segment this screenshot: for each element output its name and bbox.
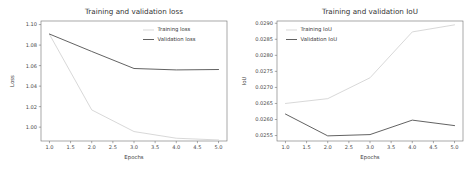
x-tick-label: 3.5 — [151, 144, 159, 150]
figure-canvas: Training and validation loss1.01.52.02.5… — [0, 0, 471, 173]
y-tick-label: 0.0280 — [255, 52, 273, 58]
y-tick-label: 0.0265 — [255, 100, 273, 106]
x-tick-label: 4.0 — [408, 144, 416, 150]
y-tick-label: 1.00 — [26, 124, 37, 130]
legend-label: Validation loss — [158, 36, 196, 42]
chart-svg: Training and validation IoU1.01.52.02.53… — [236, 0, 471, 173]
x-tick-label: 3.0 — [130, 144, 138, 150]
chart-title: Training and validation IoU — [321, 7, 418, 16]
chart-panel-loss: Training and validation loss1.01.52.02.5… — [0, 0, 236, 173]
x-axis-label: Epochs — [360, 154, 380, 161]
x-tick-label: 4.5 — [193, 144, 201, 150]
plot-frame — [41, 21, 227, 141]
series-line-validation — [285, 114, 454, 136]
chart-panel-iou: Training and validation IoU1.01.52.02.53… — [236, 0, 471, 173]
y-tick-label: 0.0290 — [255, 20, 273, 26]
x-tick-label: 4.0 — [172, 144, 180, 150]
legend: Training IoUValidation IoU — [286, 26, 337, 42]
chart-title: Training and validation loss — [84, 7, 183, 16]
x-tick-label: 1.0 — [281, 144, 289, 150]
series-line-training — [49, 34, 218, 140]
x-tick-label: 1.5 — [302, 144, 310, 150]
x-tick-label: 5.0 — [214, 144, 222, 150]
x-tick-label: 2.5 — [109, 144, 117, 150]
x-tick-label: 4.5 — [429, 144, 437, 150]
legend-label: Training IoU — [299, 26, 331, 33]
x-tick-label: 5.0 — [450, 144, 458, 150]
y-tick-label: 0.0255 — [255, 132, 273, 138]
y-tick-label: 0.0275 — [255, 68, 273, 74]
x-tick-label: 2.5 — [344, 144, 352, 150]
y-tick-label: 0.0270 — [255, 84, 273, 90]
y-tick-label: 1.08 — [26, 42, 37, 48]
y-axis-label: IoU — [241, 77, 247, 86]
y-tick-label: 1.10 — [26, 21, 37, 27]
y-tick-label: 1.06 — [26, 63, 37, 69]
y-tick-label: 0.0285 — [255, 36, 273, 42]
chart-svg: Training and validation loss1.01.52.02.5… — [0, 0, 236, 173]
x-tick-label: 1.5 — [67, 144, 75, 150]
x-tick-label: 1.0 — [45, 144, 53, 150]
x-tick-label: 3.5 — [387, 144, 395, 150]
x-tick-label: 2.0 — [323, 144, 331, 150]
x-tick-label: 3.0 — [365, 144, 373, 150]
y-tick-label: 0.0260 — [255, 116, 273, 122]
y-tick-label: 1.04 — [26, 83, 37, 89]
x-tick-label: 2.0 — [88, 144, 96, 150]
y-axis-label: Loss — [9, 75, 15, 87]
legend: Training lossValidation loss — [143, 26, 196, 42]
legend-label: Validation IoU — [300, 36, 337, 42]
x-axis-label: Epochs — [124, 154, 144, 161]
y-tick-label: 1.02 — [26, 104, 37, 110]
legend-label: Training loss — [157, 26, 191, 33]
